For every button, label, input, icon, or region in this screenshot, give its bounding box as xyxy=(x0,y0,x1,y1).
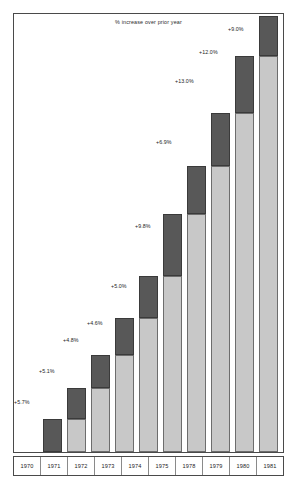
bar-segment-prior-level xyxy=(91,388,110,452)
bar-stack xyxy=(211,113,230,452)
bar-stack xyxy=(187,166,206,452)
year-label-1971: 1971 xyxy=(41,457,68,475)
bar-segment-prior-level xyxy=(235,113,254,452)
bar-stack xyxy=(43,419,62,452)
year-label-1981: 1981 xyxy=(257,457,283,475)
bar-segment-prior-level xyxy=(187,214,206,452)
bar-1973[interactable] xyxy=(115,318,134,452)
bar-segment-prior-level xyxy=(163,276,182,452)
year-label-1973: 1973 xyxy=(95,457,122,475)
bar-1970[interactable] xyxy=(43,419,62,452)
bar-chart: % increase over prior year +5.7%+5.1%+4.… xyxy=(0,0,298,489)
bar-stack xyxy=(259,16,278,452)
bar-segment-increase xyxy=(235,56,254,113)
bar-value-label-1971: +5.1% xyxy=(39,368,55,374)
bar-segment-increase xyxy=(187,166,206,214)
bar-segment-increase xyxy=(163,214,182,276)
year-label-1978: 1978 xyxy=(176,457,203,475)
bar-value-label-1973: +4.6% xyxy=(87,320,103,326)
bar-1978[interactable] xyxy=(187,166,206,452)
bar-segment-increase xyxy=(139,276,158,318)
plot-area-frame: % increase over prior year +5.7%+5.1%+4.… xyxy=(13,13,284,453)
year-label-1975: 1975 xyxy=(149,457,176,475)
year-label-1970: 1970 xyxy=(14,457,41,475)
year-label-1980: 1980 xyxy=(230,457,257,475)
bar-segment-prior-level xyxy=(259,56,278,452)
bar-value-label-1975: +9.8% xyxy=(135,223,151,229)
bar-stack xyxy=(115,318,134,452)
bar-segment-prior-level xyxy=(67,419,86,452)
bar-segment-increase xyxy=(91,355,110,388)
bar-segment-increase xyxy=(259,16,278,56)
bars-layer: +5.7%+5.1%+4.8%+4.6%+5.0%+9.8%+6.9%+13.0… xyxy=(14,14,283,452)
bar-value-label-1974: +5.0% xyxy=(111,283,127,289)
year-label-1972: 1972 xyxy=(68,457,95,475)
bar-1975[interactable] xyxy=(163,214,182,452)
bar-segment-increase xyxy=(67,388,86,419)
year-axis: 1970197119721973197419751978197919801981 xyxy=(13,456,284,476)
bar-segment-prior-level xyxy=(115,355,134,452)
bar-value-label-1979: +13.0% xyxy=(175,78,194,84)
bar-value-label-1980: +12.0% xyxy=(199,49,218,55)
year-label-1979: 1979 xyxy=(203,457,230,475)
bar-value-label-1981: +9.0% xyxy=(228,26,244,32)
bar-1979[interactable] xyxy=(211,113,230,452)
bar-segment-increase xyxy=(211,113,230,166)
bar-stack xyxy=(91,355,110,452)
bar-1974[interactable] xyxy=(139,276,158,452)
bar-stack xyxy=(67,388,86,452)
bar-segment-increase xyxy=(43,419,62,452)
bar-value-label-1978: +6.9% xyxy=(156,139,172,145)
bar-value-label-1972: +4.8% xyxy=(63,337,79,343)
bar-1972[interactable] xyxy=(91,355,110,452)
bar-segment-prior-level xyxy=(211,166,230,452)
bar-1971[interactable] xyxy=(67,388,86,452)
bar-segment-prior-level xyxy=(139,318,158,452)
bar-stack xyxy=(139,276,158,452)
bar-stack xyxy=(163,214,182,452)
bar-1981[interactable] xyxy=(259,16,278,452)
year-label-1974: 1974 xyxy=(122,457,149,475)
bar-1980[interactable] xyxy=(235,56,254,452)
bar-value-label-1970: +5.7% xyxy=(14,399,30,405)
bar-segment-increase xyxy=(115,318,134,355)
bar-stack xyxy=(235,56,254,452)
